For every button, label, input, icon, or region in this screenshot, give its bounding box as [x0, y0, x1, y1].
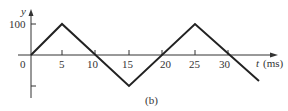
- t-axis-label: t: [256, 57, 260, 69]
- chart-canvas: y 100 0 5 10 15 20 25 30 t (ms) (b): [0, 0, 288, 111]
- figure-caption: (b): [145, 94, 158, 107]
- x-tick-label-5: 5: [59, 58, 65, 70]
- x-tick-label-15: 15: [122, 58, 134, 70]
- x-tick-label-10: 10: [87, 58, 99, 70]
- y-axis-label: y: [20, 5, 26, 17]
- triangle-wave-chart: y 100 0 5 10 15 20 25 30 t (ms) (b): [0, 0, 288, 111]
- x-tick-label-20: 20: [160, 58, 172, 70]
- t-axis-units: (ms): [263, 57, 284, 70]
- origin-label: 0: [20, 58, 26, 70]
- y-axis-arrow-icon: [29, 9, 34, 16]
- y-tick-label-100: 100: [9, 18, 26, 30]
- x-tick-label-30: 30: [219, 58, 231, 70]
- x-tick-label-25: 25: [189, 58, 201, 70]
